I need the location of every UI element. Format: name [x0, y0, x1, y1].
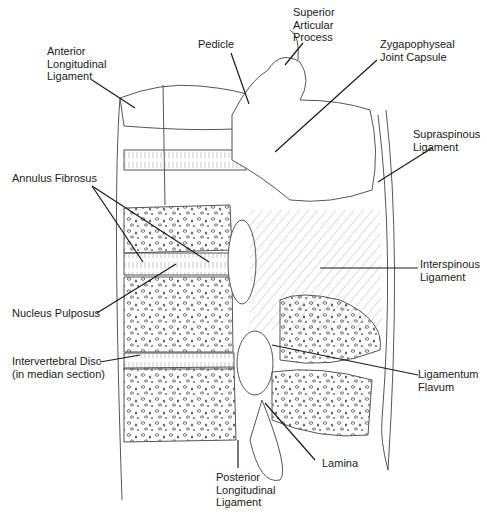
label-annulus-fibrosus: Annulus Fibrosus: [12, 172, 97, 185]
label-ligamentum-flavum: Ligamentum Flavum: [418, 368, 479, 393]
label-intervertebral-disc: Intervertebral Disc (in median section): [12, 355, 105, 380]
vertebral-column: [116, 30, 394, 500]
label-pedicle: Pedicle: [198, 38, 234, 51]
label-posterior-longitudinal-ligament: Posterior Longitudinal Ligament: [216, 471, 275, 509]
label-supraspinous-ligament: Supraspinous Ligament: [413, 128, 480, 153]
spine-diagram: Anterior Longitudinal Ligament Pedicle S…: [0, 0, 487, 513]
label-anterior-longitudinal-ligament: Anterior Longitudinal Ligament: [47, 45, 106, 83]
label-superior-articular-process: Superior Articular Process: [293, 6, 335, 44]
label-zygapophyseal-joint-capsule: Zygapophyseal Joint Capsule: [380, 38, 455, 63]
label-lamina: Lamina: [322, 457, 358, 470]
label-nucleus-pulposus: Nucleus Pulposus: [12, 307, 100, 320]
label-interspinous-ligament: Interspinous Ligament: [420, 258, 480, 283]
